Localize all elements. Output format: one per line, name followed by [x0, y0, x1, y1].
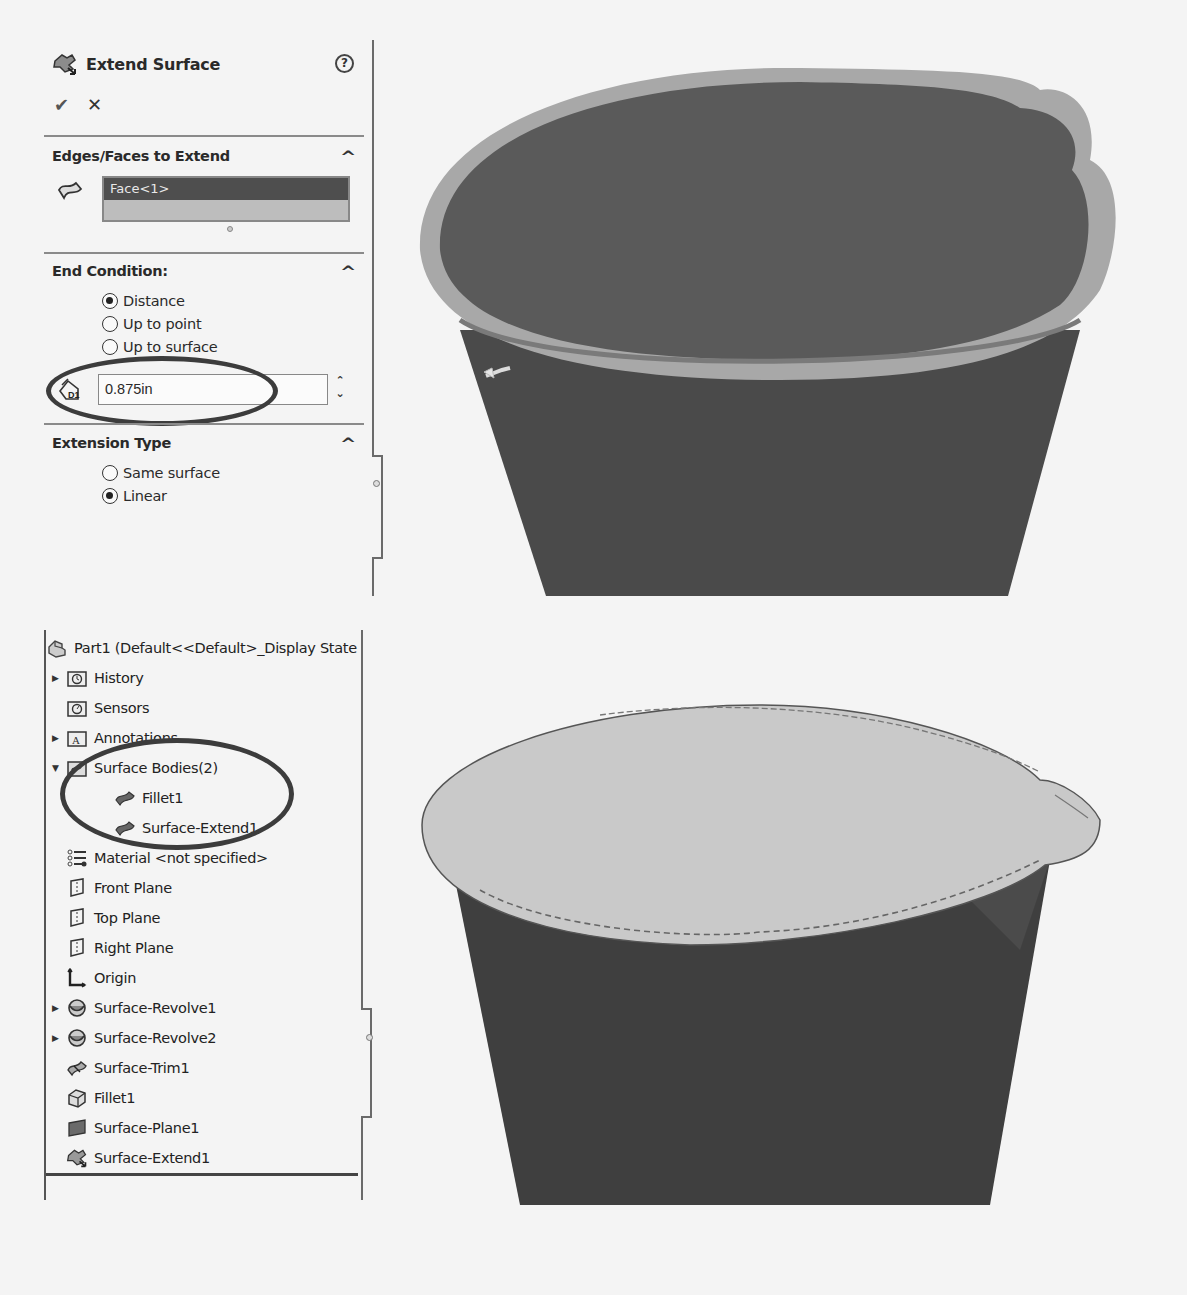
- cancel-button[interactable]: ✕: [87, 94, 102, 115]
- radio-checked-icon: [102, 488, 118, 504]
- tree-item-origin[interactable]: Origin: [52, 968, 136, 988]
- divider: [44, 252, 364, 254]
- expand-arrow-icon[interactable]: ▶: [52, 1033, 66, 1043]
- ok-button[interactable]: ✔: [54, 94, 69, 115]
- tree-item-history[interactable]: ▶ History: [52, 668, 144, 688]
- extend-surface-icon: [52, 53, 78, 75]
- divider: [44, 423, 364, 425]
- fillet-icon: [66, 1088, 88, 1108]
- plane-icon: [66, 908, 88, 928]
- distance-d1-icon: D1: [56, 377, 86, 403]
- spin-up-icon[interactable]: ⌃: [333, 374, 347, 387]
- tree-splitter[interactable]: [361, 630, 363, 1200]
- extend-surface-property-manager: Extend Surface ? ✔ ✕ Edges/Faces to Exte…: [44, 40, 372, 596]
- part-icon: [46, 638, 68, 658]
- pm-title: Extend Surface: [52, 53, 220, 75]
- plane-icon: [66, 938, 88, 958]
- svg-text:D1: D1: [68, 390, 80, 400]
- radio-unchecked-icon: [102, 465, 118, 481]
- tree-item-material[interactable]: Material <not specified>: [52, 848, 268, 868]
- pm-title-text: Extend Surface: [86, 55, 220, 74]
- collapse-extension-type-button[interactable]: ^: [340, 435, 356, 453]
- radio-distance[interactable]: Distance: [102, 293, 185, 309]
- surface-revolve-icon: [66, 998, 88, 1018]
- extension-type-heading: Extension Type: [52, 435, 171, 451]
- help-button[interactable]: ?: [335, 54, 354, 73]
- tree-item-surface-bodies[interactable]: ▼ Surface Bodies(2): [52, 758, 218, 778]
- radio-unchecked-icon: [102, 339, 118, 355]
- radio-unchecked-icon: [102, 316, 118, 332]
- tree-item-fillet1[interactable]: Fillet1: [52, 1088, 135, 1108]
- resize-handle[interactable]: [227, 226, 233, 232]
- edges-faces-heading: Edges/Faces to Extend: [52, 148, 230, 164]
- surface-plane-icon: [66, 1118, 88, 1138]
- extend-surface-icon: [66, 1148, 88, 1168]
- tree-item-surface-revolve1[interactable]: ▶ Surface-Revolve1: [52, 998, 216, 1018]
- radio-same-surface[interactable]: Same surface: [102, 465, 220, 481]
- surface-trim-icon: [66, 1058, 88, 1078]
- tree-item-right-plane[interactable]: Right Plane: [52, 938, 173, 958]
- selection-item[interactable]: Face<1>: [104, 178, 348, 200]
- spin-down-icon[interactable]: ⌄: [333, 387, 347, 400]
- graphics-area-preview[interactable]: [400, 50, 1160, 610]
- distance-input[interactable]: 0.875in: [98, 374, 328, 405]
- origin-icon: [66, 968, 88, 988]
- divider: [44, 135, 364, 137]
- tree-item-front-plane[interactable]: Front Plane: [52, 878, 172, 898]
- surface-revolve-icon: [66, 1028, 88, 1048]
- tree-item-surface-extend1[interactable]: Surface-Extend1: [52, 1148, 210, 1168]
- tree-item-body-surface-extend1[interactable]: Surface-Extend1: [114, 818, 258, 838]
- tree-root-part1[interactable]: Part1 (Default<<Default>_Display State: [46, 638, 357, 658]
- material-icon: [66, 848, 88, 868]
- collapse-end-condition-button[interactable]: ^: [340, 263, 356, 281]
- annotations-folder-icon: A: [66, 728, 88, 748]
- tree-item-surface-trim1[interactable]: Surface-Trim1: [52, 1058, 189, 1078]
- radio-linear[interactable]: Linear: [102, 488, 167, 504]
- radio-checked-icon: [102, 293, 118, 309]
- tree-item-sensors[interactable]: Sensors: [52, 698, 149, 718]
- expand-arrow-icon[interactable]: ▶: [52, 733, 66, 743]
- faces-selection-list[interactable]: Face<1>: [102, 176, 350, 222]
- radio-up-to-point[interactable]: Up to point: [102, 316, 201, 332]
- panel-splitter[interactable]: [372, 40, 384, 596]
- surface-body-icon: [114, 818, 136, 838]
- expand-arrow-icon[interactable]: ▶: [52, 673, 66, 683]
- tree-item-body-fillet1[interactable]: Fillet1: [114, 788, 183, 808]
- history-folder-icon: [66, 668, 88, 688]
- svg-text:A: A: [72, 734, 80, 746]
- graphics-area-result[interactable]: [400, 700, 1180, 1260]
- radio-up-to-surface[interactable]: Up to surface: [102, 339, 218, 355]
- collapse-arrow-icon[interactable]: ▼: [52, 763, 66, 773]
- sensors-folder-icon: [66, 698, 88, 718]
- tree-item-surface-revolve2[interactable]: ▶ Surface-Revolve2: [52, 1028, 216, 1048]
- tree-item-annotations[interactable]: ▶ A Annotations: [52, 728, 178, 748]
- collapse-edges-faces-button[interactable]: ^: [340, 148, 356, 166]
- tree-item-top-plane[interactable]: Top Plane: [52, 908, 160, 928]
- surface-bodies-folder-icon: [66, 758, 88, 778]
- expand-arrow-icon[interactable]: ▶: [52, 1003, 66, 1013]
- plane-icon: [66, 878, 88, 898]
- tree-item-surface-plane1[interactable]: Surface-Plane1: [52, 1118, 199, 1138]
- feature-manager-tree: Part1 (Default<<Default>_Display State ▶…: [44, 630, 360, 1210]
- face-selection-icon: [56, 178, 84, 202]
- distance-spinner[interactable]: ⌃ ⌄: [333, 374, 347, 406]
- end-condition-heading: End Condition:: [52, 263, 168, 279]
- surface-body-icon: [114, 788, 136, 808]
